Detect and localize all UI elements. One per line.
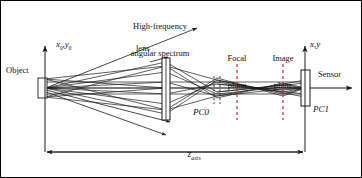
z-axis-label-sub: axis [191, 155, 200, 161]
output-axis-label: x,y [310, 40, 320, 49]
focal-plane-label-line1: Focal [213, 54, 261, 63]
high-frequency-label-line1: High-frequency [114, 22, 206, 31]
high-frequency-label-line2: angular spectrum [114, 49, 206, 58]
pc0-label: PC0 [193, 108, 209, 117]
focal-plane-label: Focal plane [213, 36, 261, 107]
object-label: Object [6, 66, 29, 75]
pc1-label: PC1 [313, 105, 329, 114]
object-element [38, 78, 47, 98]
z-axis-label: zaxis [178, 140, 201, 171]
input-axis-label: x0,y0 [47, 31, 71, 61]
lens-label: lens [136, 44, 150, 53]
high-frequency-label: High-frequency angular spectrum [114, 4, 206, 75]
sensor-label: Sensor [318, 70, 341, 79]
image-plane-label-line2: plane [259, 81, 307, 90]
diffracted-order-arrows [46, 90, 170, 135]
image-plane-label-line1: Image [259, 54, 307, 63]
image-plane-label: Image plane [259, 36, 307, 107]
optical-diagram-figure: High-frequency angular spectrum Object l… [0, 0, 362, 178]
input-axis-y-sub: 0 [69, 45, 72, 51]
focal-plane-label-line2: plane [213, 81, 261, 90]
